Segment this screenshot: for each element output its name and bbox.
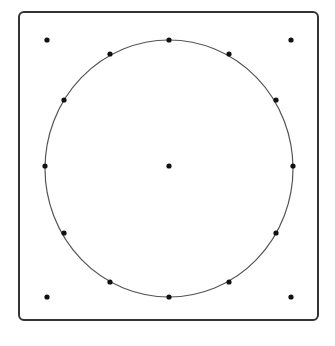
circle-point [107,51,112,56]
circle-points-diagram [0,0,335,346]
corner-point [44,294,49,299]
circle-point [61,230,66,235]
circle-point [273,230,278,235]
circle-point [107,279,112,284]
center-point [166,163,171,168]
points-group [42,37,295,299]
corner-point [44,37,49,42]
circle-point [42,163,47,168]
circle-point [273,97,278,102]
corner-point [288,37,293,42]
circle-point [226,51,231,56]
diagram-canvas [0,0,335,346]
circle-point [166,37,171,42]
circle-point [226,279,231,284]
circle-point [166,294,171,299]
circle-point [290,163,295,168]
circle-point [61,97,66,102]
corner-point [288,294,293,299]
